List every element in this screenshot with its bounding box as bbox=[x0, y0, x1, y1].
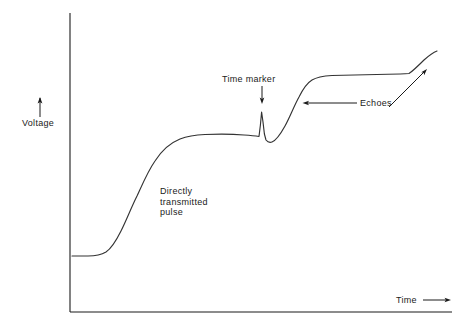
x-axis-label: Time bbox=[396, 295, 417, 306]
down-arrow-icon bbox=[260, 86, 265, 104]
annotation-directly-transmitted-pulse: Directly transmitted pulse bbox=[160, 186, 208, 218]
plot-canvas bbox=[0, 0, 466, 329]
figure-root: Voltage Directly transmitted pulse Time … bbox=[0, 0, 466, 329]
annotation-echoes: Echoes bbox=[360, 98, 392, 109]
up-arrow-icon bbox=[38, 97, 43, 117]
right-arrow-icon bbox=[423, 298, 451, 303]
up-right-arrow-icon bbox=[389, 69, 427, 107]
annotation-time-marker: Time marker bbox=[222, 74, 275, 85]
y-axis-label: Voltage bbox=[22, 118, 54, 129]
left-arrow-icon bbox=[303, 101, 358, 106]
